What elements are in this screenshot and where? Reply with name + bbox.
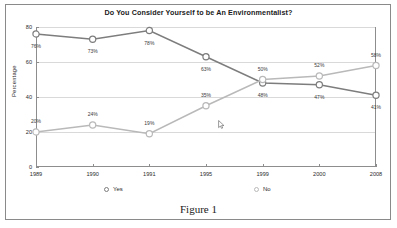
- x-tick-label: 1991: [143, 171, 155, 177]
- data-point-marker: [203, 54, 209, 60]
- x-tick-label: 2000: [313, 171, 325, 177]
- plot-area: 020406080 1989199019911995199920002008 7…: [36, 27, 376, 167]
- data-point-label: 24%: [88, 111, 98, 117]
- y-tick-label: 40: [26, 94, 32, 100]
- data-point-label: 76%: [31, 43, 41, 49]
- data-point-label: 48%: [258, 92, 268, 98]
- legend-marker-icon: [254, 187, 259, 192]
- data-point-marker: [146, 131, 152, 137]
- x-tick-label: 2008: [370, 171, 382, 177]
- x-tick-label: 1999: [256, 171, 268, 177]
- data-point-label: 52%: [314, 62, 324, 68]
- data-point-label: 47%: [314, 94, 324, 100]
- data-point-label: 35%: [201, 92, 211, 98]
- chart-title: Do You Consider Yourself to be An Enviro…: [0, 8, 397, 17]
- data-point-marker: [33, 129, 39, 135]
- data-point-marker: [203, 103, 209, 109]
- data-point-marker: [90, 122, 96, 128]
- legend-label: Yes: [113, 186, 123, 192]
- data-point-label: 41%: [371, 104, 381, 110]
- data-point-marker: [33, 31, 39, 37]
- y-tick-label: 20: [26, 129, 32, 135]
- plot-frame: 020406080 1989199019911995199920002008 7…: [36, 27, 376, 167]
- legend-item-yes[interactable]: Yes: [104, 186, 123, 192]
- data-point-label: 19%: [144, 120, 154, 126]
- y-axis-title: Percentage: [11, 65, 17, 97]
- data-point-marker: [316, 82, 322, 88]
- y-tick-mark: [36, 167, 39, 168]
- figure-caption: Figure 1: [0, 203, 397, 215]
- data-point-marker: [90, 36, 96, 42]
- chart-legend: YesNo: [36, 186, 376, 198]
- y-tick-label: 60: [26, 59, 32, 65]
- data-point-label: 78%: [144, 40, 154, 46]
- legend-label: No: [263, 186, 271, 192]
- legend-marker-icon: [104, 187, 109, 192]
- data-point-marker: [260, 76, 266, 82]
- data-point-label: 58%: [371, 52, 381, 58]
- series-line-no: [36, 66, 376, 134]
- x-tick-mark: [376, 164, 377, 167]
- figure-page: Do You Consider Yourself to be An Enviro…: [0, 0, 397, 228]
- x-tick-label: 1989: [30, 171, 42, 177]
- data-point-label: 20%: [31, 118, 41, 124]
- data-point-marker: [146, 27, 152, 33]
- legend-item-no[interactable]: No: [254, 186, 271, 192]
- series-line-yes: [36, 31, 376, 96]
- x-tick-label: 1995: [200, 171, 212, 177]
- y-tick-label: 80: [26, 24, 32, 30]
- data-point-marker: [316, 73, 322, 79]
- data-point-label: 73%: [88, 48, 98, 54]
- data-point-marker: [373, 92, 379, 98]
- x-tick-label: 1990: [86, 171, 98, 177]
- data-point-label: 50%: [258, 66, 268, 72]
- y-tick-label: 0: [29, 164, 32, 170]
- data-point-label: 63%: [201, 66, 211, 72]
- data-point-marker: [373, 62, 379, 68]
